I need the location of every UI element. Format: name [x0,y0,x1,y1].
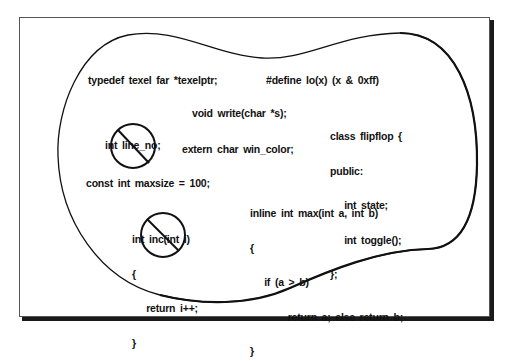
code-line: int inc(int i) [132,234,198,246]
line-no-declaration: int line_no; [105,140,161,152]
code-line: { [250,243,403,255]
inline-max-block: inline int max(int a, int b) { if (a > b… [250,185,403,361]
define-macro: #define lo(x) (x & 0xff) [266,75,379,87]
code-line: { [132,269,198,281]
code-line: return i++; [132,303,198,315]
code-line: if (a > b) [250,277,403,289]
code-line: } [132,338,198,350]
code-line: } [250,346,403,358]
code-line: inline int max(int a, int b) [250,208,403,220]
typedef-declaration: typedef texel far *texelptr; [88,75,217,87]
code-line: class flipflop { [330,131,402,143]
inc-function-block: int inc(int i) { return i++; } [132,211,198,361]
code-line: return a; else return b; [250,312,403,324]
const-declaration: const int maxsize = 100; [86,178,210,190]
extern-declaration: extern char win_color; [182,144,294,156]
code-line: public: [330,166,402,178]
write-function-declaration: void write(char *s); [192,108,287,120]
